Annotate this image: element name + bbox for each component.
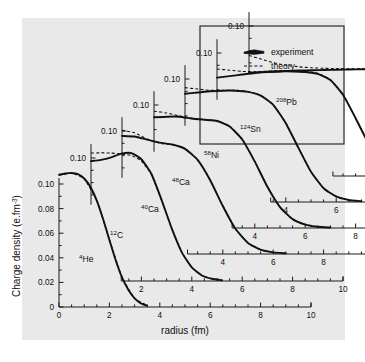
- y-axis-title: Charge density (e.fm-3): [11, 195, 23, 297]
- x-tick-label: 4: [190, 285, 195, 294]
- main-y-axis: 0.100.080.060.040.020: [38, 178, 63, 312]
- nucleus-symbol: Ni: [211, 150, 219, 160]
- y-tick-label: 0.04: [38, 254, 54, 263]
- y-tick-label: 0: [49, 303, 54, 312]
- x-axis-He-4: 0246810: [57, 303, 316, 321]
- offset-y-axis-Ca-48: 0.10: [133, 91, 158, 152]
- x-tick-label: 4: [158, 311, 163, 320]
- offset-y-tick-label: 0.10: [133, 101, 149, 110]
- legend-swatch-experiment: [244, 50, 264, 55]
- experiment-curve-He-4: [59, 173, 147, 306]
- nucleus-symbol: Sn: [250, 124, 261, 134]
- nucleus-symbol: Pb: [286, 97, 297, 107]
- nucleus-label-Pb-208: 208Pb: [276, 96, 297, 108]
- curve-group-C-12: 12C: [91, 153, 222, 280]
- x-tick-label: 6: [303, 232, 308, 241]
- offset-y-axis-Ca-40: 0.10: [101, 117, 126, 178]
- y-axis-title-text: Charge density (e.fm-3): [11, 195, 23, 297]
- legend-label-experiment: experiment: [271, 47, 314, 57]
- curve-group-Sn-124: 124Sn: [217, 69, 365, 175]
- x-tick-label: 6: [208, 311, 213, 320]
- y-tick-label: 0.10: [38, 180, 54, 189]
- x-tick-label: 2: [107, 311, 112, 320]
- x-tick-label: 6: [334, 206, 339, 215]
- charge-density-chart: 0.100.080.060.040.020Charge density (e.f…: [0, 0, 365, 362]
- x-axis-title: radius (fm): [161, 325, 209, 336]
- legend-label-theory: theory: [271, 61, 296, 71]
- x-tick-label: 10: [338, 285, 348, 294]
- y-axis-title-main: Charge density (e.fm: [11, 204, 22, 297]
- y-axis-title-tail: ): [11, 195, 22, 198]
- x-tick-label: 4: [221, 258, 226, 267]
- x-tick-label: 6: [271, 258, 276, 267]
- inset-frame: [200, 26, 344, 144]
- nucleus-mass-number: 208: [276, 96, 287, 103]
- x-tick-label: 10: [306, 311, 316, 320]
- x-tick-label: 2: [139, 285, 144, 294]
- experiment-curve-Ca-48: [154, 117, 330, 228]
- offset-y-tick-label: 0.10: [196, 49, 212, 58]
- offset-y-tick-label: 0.10: [70, 154, 86, 163]
- y-tick-label: 0.08: [38, 205, 54, 214]
- offset-y-tick-label: 0.10: [101, 127, 117, 136]
- x-tick-label: 8: [290, 285, 295, 294]
- nucleus-symbol: C: [117, 230, 123, 240]
- x-tick-label: 8: [353, 232, 358, 241]
- nucleus-label-C-12: 12C: [110, 229, 123, 241]
- x-tick-label: 4: [253, 232, 258, 241]
- x-axis-Sn-124: 6810: [333, 172, 365, 190]
- experiment-curve-C-12: [91, 153, 222, 280]
- x-axis-C-12: 246810: [121, 277, 348, 295]
- theory-curve-He-4: [59, 173, 147, 305]
- nucleus-mass-number: 124: [240, 123, 251, 130]
- theory-curve-Ca-48: [154, 111, 318, 227]
- nucleus-symbol: He: [82, 254, 93, 264]
- y-tick-label: 0.06: [38, 229, 54, 238]
- x-tick-label: 6: [240, 285, 245, 294]
- nucleus-label-He-4: 4He: [79, 253, 94, 265]
- nucleus-label-Ca-48: 48Ca: [172, 176, 190, 188]
- nucleus-label-Ni-58: 58Ni: [204, 149, 219, 161]
- x-tick-label: 8: [321, 258, 326, 267]
- x-tick-label: 8: [258, 311, 263, 320]
- experiment-curve-Pb-208: [249, 69, 365, 148]
- theory-curve-Ca-40: [122, 130, 273, 252]
- charge-density-figure: 0.100.080.060.040.020Charge density (e.f…: [0, 0, 365, 362]
- legend: experimenttheory: [244, 47, 314, 71]
- y-tick-label: 0.02: [38, 278, 54, 287]
- nucleus-label-Ca-40: 40Ca: [141, 203, 159, 215]
- x-axis-Ca-48: 46810: [232, 224, 365, 242]
- nucleus-symbol: Ca: [179, 177, 190, 187]
- nucleus-label-Sn-124: 124Sn: [240, 123, 261, 135]
- offset-y-axis-Pb-208: 0.10: [228, 12, 253, 73]
- nucleus-symbol: Ca: [148, 204, 159, 214]
- theory-curve-Sn-124: [217, 69, 365, 174]
- offset-y-tick-label: 0.10: [164, 75, 180, 84]
- curve-group-He-4: 4He: [59, 173, 147, 306]
- theory-curve-C-12: [91, 153, 212, 279]
- x-tick-label: 0: [57, 311, 62, 320]
- offset-y-tick-label: 0.10: [228, 22, 244, 31]
